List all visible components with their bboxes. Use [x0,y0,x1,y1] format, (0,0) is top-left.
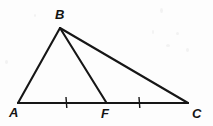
tick-mark-af [66,97,67,108]
segment-bc-line [60,28,188,103]
figure-canvas: A B C F [0,0,213,126]
geometry-figure: A B C F [0,0,213,126]
vertex-label-c: C [192,106,202,121]
tick-mark-fc [139,97,140,108]
vertex-label-f: F [101,106,110,121]
segment-ab-line [18,28,60,103]
vertex-label-b: B [55,7,64,22]
segment-bf-line [60,28,106,102]
vertex-label-a: A [8,105,18,120]
